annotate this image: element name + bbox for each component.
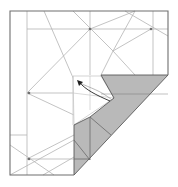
- dot-icon: [89, 28, 92, 31]
- diagram-canvas: [0, 0, 178, 187]
- dot-icon: [28, 92, 31, 95]
- origami-diagram: [0, 0, 178, 187]
- dot-icon: [28, 158, 31, 161]
- dot-icon: [150, 28, 153, 31]
